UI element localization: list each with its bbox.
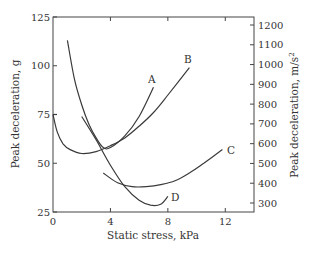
y-tick-label: 50 xyxy=(37,158,50,169)
y2-tick-label: 1000 xyxy=(258,59,283,70)
y2-axis-title: Peak deceleration, m/s2 xyxy=(288,52,300,177)
curve-d xyxy=(82,117,168,206)
x-tick-label: 0 xyxy=(50,216,56,227)
x-tick-label: 4 xyxy=(107,216,113,227)
curve-label-a: A xyxy=(147,73,156,85)
y-tick-label: 125 xyxy=(31,12,50,23)
curve-label-c: C xyxy=(227,144,235,156)
x-tick-label: 12 xyxy=(219,216,232,227)
y-axis-title: Peak deceleration, g xyxy=(9,59,21,168)
y-tick-label: 100 xyxy=(31,60,50,71)
y2-tick-label: 900 xyxy=(258,79,277,90)
curve-label-b: B xyxy=(184,53,192,65)
y2-tick-label: 600 xyxy=(258,138,277,149)
curve-label-d: D xyxy=(171,191,179,203)
chart-svg: 04812 255075100125 300400500600700800900… xyxy=(0,0,318,255)
x-ticks: 04812 xyxy=(50,17,232,227)
chart: 04812 255075100125 300400500600700800900… xyxy=(0,0,318,255)
y2-tick-label: 400 xyxy=(258,178,277,189)
plot-frame xyxy=(53,17,254,212)
y2-tick-label: 500 xyxy=(258,158,277,169)
y2-tick-label: 800 xyxy=(258,99,277,110)
x-axis-title: Static stress, kPa xyxy=(107,229,199,241)
y2-tick-label: 1100 xyxy=(258,39,283,50)
y-ticks-right: 300400500600700800900100011001200 xyxy=(250,20,283,209)
y2-tick-label: 700 xyxy=(258,118,277,129)
y2-tick-label: 1200 xyxy=(258,20,283,31)
curves xyxy=(53,40,222,205)
curve-b xyxy=(53,68,189,154)
y-tick-label: 75 xyxy=(37,109,50,120)
y2-tick-label: 300 xyxy=(258,198,277,209)
x-tick-label: 8 xyxy=(165,216,171,227)
y-tick-label: 25 xyxy=(37,207,50,218)
curve-a xyxy=(67,40,153,149)
